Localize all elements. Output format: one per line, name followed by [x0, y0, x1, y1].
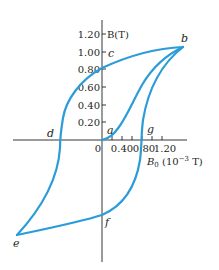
- y-tick-label: 0.80: [78, 64, 100, 75]
- x-tick-label: 0.40: [111, 143, 133, 154]
- y-tick-label: 1.20: [78, 29, 100, 40]
- x-tick-label: 0.80: [133, 143, 155, 154]
- point-label-c: c: [108, 47, 114, 60]
- point-label-f: f: [104, 216, 111, 229]
- y-ticks: [102, 34, 106, 122]
- point-label-e: e: [13, 237, 20, 250]
- y-tick-label: 1.00: [78, 47, 100, 58]
- point-label-a: a: [107, 124, 114, 137]
- point-label-g: g: [147, 123, 154, 136]
- x-ticks: [112, 136, 162, 140]
- ascending-branch-curve: [17, 47, 183, 235]
- hysteresis-chart: 0.20 0.40 0.60 0.80 1.00 1.20 0 0.40 0.8…: [0, 0, 219, 270]
- y-axis-label: B(T): [107, 29, 129, 40]
- origin-label: 0: [95, 143, 101, 154]
- x-axis-label: B0 (10−3 T): [146, 155, 203, 169]
- y-tick-label: 0.40: [78, 100, 100, 111]
- point-label-b: b: [181, 32, 188, 45]
- y-tick-label: 0.20: [78, 117, 100, 128]
- point-label-d: d: [47, 127, 54, 140]
- x-tick-label: 1.20: [154, 143, 176, 154]
